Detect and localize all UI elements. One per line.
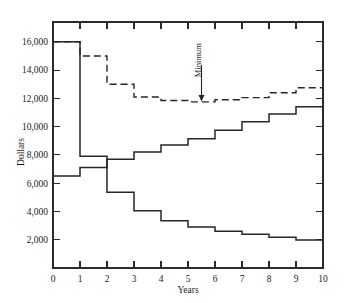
x-tick-label: 3 [132,274,137,284]
x-tick-label: 7 [240,274,245,284]
chart-background [0,0,344,303]
y-tick-label: 14,000 [22,65,48,75]
y-tick-label: 16,000 [22,37,48,47]
cost-vs-years-step-chart: 2,0004,0006,0008,00010,00012,00014,00016… [0,0,344,303]
chart-container: 2,0004,0006,0008,00010,00012,00014,00016… [0,0,344,303]
x-axis-title: Years [177,285,199,295]
x-tick-label: 6 [213,274,218,284]
y-tick-label: 6,000 [27,179,49,189]
x-tick-label: 2 [105,274,110,284]
x-tick-label: 5 [186,274,191,284]
x-tick-label: 4 [159,274,164,284]
x-tick-label: 1 [78,274,83,284]
y-tick-label: 8,000 [27,150,49,160]
y-axis-title: Dollars [16,138,26,166]
x-tick-label: 0 [51,274,56,284]
y-tick-label: 2,000 [27,235,49,245]
x-tick-label: 10 [318,274,328,284]
y-tick-label: 10,000 [22,122,48,132]
x-tick-label: 9 [294,274,299,284]
x-tick-label: 8 [267,274,272,284]
y-tick-label: 12,000 [22,94,48,104]
y-tick-label: 4,000 [27,207,49,217]
